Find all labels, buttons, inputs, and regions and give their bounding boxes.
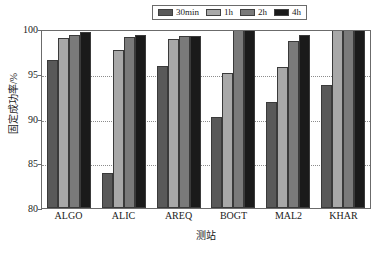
x-axis-label: 测站 bbox=[41, 227, 371, 242]
legend-label-30min: 30min bbox=[176, 8, 199, 17]
bar-ALIC-2h[interactable] bbox=[124, 37, 135, 208]
x-tick-label-KHAR: KHAR bbox=[316, 211, 371, 227]
bar-ALGO-2h[interactable] bbox=[69, 35, 80, 208]
legend-item-1h: 1h bbox=[206, 8, 233, 17]
bar-MAL2-30min[interactable] bbox=[266, 102, 277, 208]
bar-MAL2-2h[interactable] bbox=[288, 41, 299, 208]
y-tick-label-100: 100 bbox=[2, 25, 38, 35]
legend-item-2h: 2h bbox=[240, 8, 267, 17]
bar-AREQ-1h[interactable] bbox=[168, 39, 179, 208]
chart-legend: 30min 1h 2h 4h bbox=[152, 5, 307, 20]
bar-MAL2-1h[interactable] bbox=[277, 67, 288, 208]
legend-item-30min: 30min bbox=[158, 8, 199, 17]
bar-group-MAL2 bbox=[261, 31, 316, 208]
bar-KHAR-1h[interactable] bbox=[332, 30, 343, 208]
legend-swatch-1h bbox=[206, 9, 221, 16]
bar-ALIC-30min[interactable] bbox=[102, 173, 113, 208]
x-tick-label-BOGT: BOGT bbox=[206, 211, 261, 227]
bar-BOGT-4h[interactable] bbox=[244, 30, 255, 208]
chart-figure: 30min 1h 2h 4h 10095908580 ALGOALICAREQB… bbox=[0, 0, 379, 266]
bar-KHAR-30min[interactable] bbox=[321, 85, 332, 208]
legend-swatch-4h bbox=[274, 9, 289, 16]
legend-label-4h: 4h bbox=[292, 8, 301, 17]
x-axis-ticks: ALGOALICAREQBOGTMAL2KHAR bbox=[41, 211, 371, 227]
bar-group-ALIC bbox=[97, 31, 152, 208]
x-tick-label-AREQ: AREQ bbox=[151, 211, 206, 227]
bar-ALIC-1h[interactable] bbox=[113, 50, 124, 208]
bar-AREQ-2h[interactable] bbox=[179, 36, 190, 208]
x-tick-label-MAL2: MAL2 bbox=[261, 211, 316, 227]
legend-label-1h: 1h bbox=[224, 8, 233, 17]
y-tick-label-80: 80 bbox=[2, 204, 38, 214]
bar-ALGO-4h[interactable] bbox=[80, 32, 91, 208]
bar-BOGT-1h[interactable] bbox=[222, 73, 233, 208]
bar-MAL2-4h[interactable] bbox=[299, 35, 310, 208]
bar-group-BOGT bbox=[206, 31, 261, 208]
bar-ALIC-4h[interactable] bbox=[135, 35, 146, 208]
bar-BOGT-30min[interactable] bbox=[211, 117, 222, 208]
legend-label-2h: 2h bbox=[258, 8, 267, 17]
y-tick-label-85: 85 bbox=[2, 159, 38, 169]
y-axis-label: 固定成功率/% bbox=[5, 49, 20, 159]
bar-AREQ-4h[interactable] bbox=[190, 36, 201, 208]
bar-KHAR-2h[interactable] bbox=[343, 30, 354, 208]
legend-swatch-2h bbox=[240, 9, 255, 16]
legend-swatch-30min bbox=[158, 9, 173, 16]
bars-layer bbox=[42, 31, 370, 208]
x-tick-label-ALIC: ALIC bbox=[96, 211, 151, 227]
y-tick-mark-80 bbox=[38, 209, 42, 210]
plot-area bbox=[41, 30, 371, 209]
x-tick-label-ALGO: ALGO bbox=[41, 211, 96, 227]
bar-AREQ-30min[interactable] bbox=[157, 66, 168, 208]
bar-BOGT-2h[interactable] bbox=[233, 30, 244, 208]
legend-item-4h: 4h bbox=[274, 8, 301, 17]
bar-ALGO-30min[interactable] bbox=[47, 60, 58, 208]
bar-group-AREQ bbox=[151, 31, 206, 208]
bar-group-KHAR bbox=[315, 31, 370, 208]
bar-KHAR-4h[interactable] bbox=[354, 30, 365, 208]
bar-ALGO-1h[interactable] bbox=[58, 38, 69, 208]
bar-group-ALGO bbox=[42, 31, 97, 208]
